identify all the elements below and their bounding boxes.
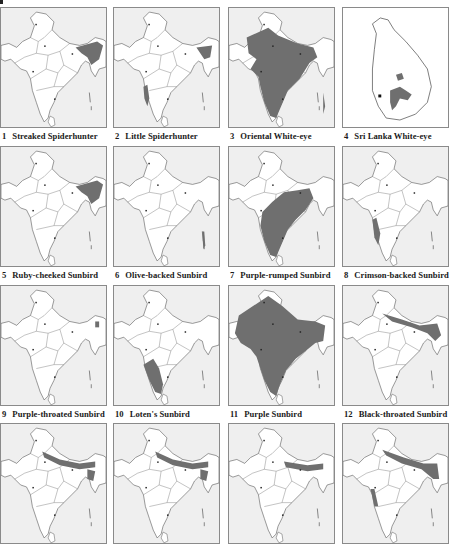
india-map	[343, 286, 448, 405]
india-map	[114, 424, 219, 543]
map-number: 9	[2, 409, 6, 419]
map-caption: 12Black-throated Sunbird	[344, 409, 447, 419]
range-map-panel	[113, 7, 220, 128]
map-number: 8	[344, 270, 348, 280]
map-caption: 11Purple Sunbird	[230, 409, 302, 419]
map-caption: 8Crimson-backed Sunbird	[344, 270, 449, 280]
species-name: Oriental White-eye	[240, 131, 311, 141]
species-name: Purple-rumped Sunbird	[240, 270, 330, 280]
india-map	[229, 424, 334, 543]
range-map-panel	[0, 285, 107, 406]
map-number: 10	[115, 409, 124, 419]
map-caption: 9Purple-throated Sunbird	[2, 409, 105, 419]
map-number: 11	[230, 409, 238, 419]
range-map-panel	[0, 7, 107, 128]
range-map-panel	[228, 7, 335, 128]
map-caption: 6Olive-backed Sunbird	[115, 270, 207, 280]
map-caption: 4Sri Lanka White-eye	[344, 131, 432, 141]
species-name: Sri Lanka White-eye	[354, 131, 431, 141]
range-map-panel	[342, 423, 449, 544]
india-map	[1, 147, 106, 266]
india-map	[1, 424, 106, 543]
species-name: Crimson-backed Sunbird	[354, 270, 448, 280]
map-number: 7	[230, 270, 234, 280]
map-caption: 5Ruby-cheeked Sunbird	[2, 270, 98, 280]
india-map	[1, 8, 106, 127]
india-map	[229, 147, 334, 266]
map-caption: 3Oriental White-eye	[230, 131, 312, 141]
range-map-panel	[342, 146, 449, 267]
map-number: 3	[230, 131, 234, 141]
map-number: 2	[115, 131, 119, 141]
range-map-panel	[113, 423, 220, 544]
map-caption: 2Little Spiderhunter	[115, 131, 198, 141]
species-name: Ruby-cheeked Sunbird	[12, 270, 98, 280]
range-map-panel	[228, 423, 335, 544]
range-map-panel	[342, 7, 449, 128]
map-number: 5	[2, 270, 6, 280]
species-name: Little Spiderhunter	[125, 131, 197, 141]
map-caption: 1Streaked Spiderhunter	[2, 131, 98, 141]
map-caption: 10Loten's Sunbird	[115, 409, 190, 419]
india-map	[229, 286, 334, 405]
map-number: 12	[344, 409, 353, 419]
header-bar	[0, 0, 3, 4]
map-caption: 7Purple-rumped Sunbird	[230, 270, 330, 280]
india-map	[114, 8, 219, 127]
sri-lanka-map	[343, 8, 448, 127]
range-map-panel	[113, 285, 220, 406]
india-map	[343, 424, 448, 543]
species-name: Black-throated Sunbird	[359, 409, 448, 419]
india-map	[229, 8, 334, 127]
range-map-panel	[0, 146, 107, 267]
india-map	[343, 147, 448, 266]
plate-header: PLATE 96	[0, 0, 51, 4]
india-map	[1, 286, 106, 405]
map-number: 6	[115, 270, 119, 280]
map-number: 4	[344, 131, 348, 141]
species-name: Streaked Spiderhunter	[12, 131, 97, 141]
range-map-panel	[113, 146, 220, 267]
india-map	[114, 147, 219, 266]
species-name: Loten's Sunbird	[130, 409, 190, 419]
range-map-panel	[342, 285, 449, 406]
species-name: Purple Sunbird	[244, 409, 302, 419]
range-map-panel	[228, 285, 335, 406]
india-map	[114, 286, 219, 405]
species-name: Purple-throated Sunbird	[12, 409, 104, 419]
range-map-panel	[228, 146, 335, 267]
species-name: Olive-backed Sunbird	[125, 270, 207, 280]
range-map-panel	[0, 423, 107, 544]
map-number: 1	[2, 131, 6, 141]
